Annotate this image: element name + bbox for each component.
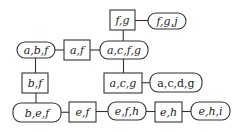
node-label: b,f [28,77,45,90]
clique-node-efh: e,f,h [108,102,146,120]
clique-node-acdg: a,c,d,g [150,73,202,92]
node-label: a,c,f,g [107,44,141,57]
separator-node-fg: f,g [110,10,135,30]
separator-node-ef: e,f [69,102,96,122]
edges [36,21,192,113]
node-label: a,f [70,44,86,57]
node-label: e,f,h [115,105,139,118]
node-label: b,e,f [25,107,52,120]
separator-node-acg: a,c,g [104,73,142,93]
clique-node-bef: b,e,f [13,103,61,122]
junction-tree-diagram: f,gf,g,ja,b,fa,fa,c,f,gb,fa,c,ga,c,d,gb,… [0,0,241,132]
clique-node-abf: a,b,f [17,42,55,58]
nodes: f,gf,g,ja,b,fa,fa,c,f,gb,fa,c,ga,c,d,gb,… [13,10,230,122]
separator-node-af: a,f [64,40,90,60]
clique-node-ehi: e,h,i [191,102,230,120]
separator-node-bf: b,f [22,73,48,93]
node-label: e,f [75,106,91,119]
node-label: e,h [160,106,177,119]
node-label: a,c,d,g [157,77,194,90]
node-label: a,c,g [110,77,137,90]
node-label: f,g [114,14,129,27]
node-label: e,h,i [198,105,222,118]
node-label: f,g,j [155,15,178,28]
clique-node-fgj: f,g,j [148,13,186,29]
separator-node-eh: e,h [155,102,182,122]
node-label: a,b,f [24,44,51,57]
clique-node-acfg: a,c,f,g [100,41,148,59]
